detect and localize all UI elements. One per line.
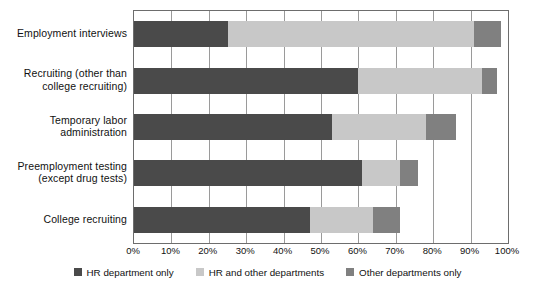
legend-item[interactable]: Other departments only: [346, 267, 461, 278]
category-label: Employment interviews: [0, 27, 127, 40]
plot-area: [133, 10, 509, 244]
category-label: Temporary laboradministration: [0, 114, 127, 139]
category-label-line: Preemployment testing: [0, 160, 127, 173]
bar-segment: [482, 68, 497, 94]
chart-legend: HR department onlyHR and other departmen…: [0, 264, 535, 280]
bar-segment: [310, 207, 374, 233]
bar-segment: [332, 114, 426, 140]
bar-segment: [134, 114, 332, 140]
bar-segment: [134, 160, 362, 186]
category-label-line: Employment interviews: [0, 27, 127, 40]
x-tick-label: 60%: [348, 245, 367, 257]
bar-row: [134, 207, 508, 233]
category-label: Preemployment testing(except drug tests): [0, 160, 127, 185]
x-tick-label: 80%: [423, 245, 442, 257]
category-label-line: College recruiting: [0, 213, 127, 226]
bar-segment: [358, 68, 481, 94]
bar-row: [134, 68, 508, 94]
x-tick-label: 50%: [310, 245, 329, 257]
x-tick-label: 70%: [385, 245, 404, 257]
category-label-line: (except drug tests): [0, 172, 127, 185]
x-tick-label: 100%: [495, 245, 519, 257]
bar-segment: [474, 21, 500, 47]
x-tick-label: 90%: [460, 245, 479, 257]
legend-swatch-icon: [196, 268, 204, 276]
category-label: College recruiting: [0, 213, 127, 226]
stacked-bar-chart: Employment interviewsRecruiting (other t…: [0, 0, 535, 285]
bars-layer: [134, 11, 508, 243]
category-label-line: Temporary labor: [0, 114, 127, 127]
category-label-line: Recruiting (other than: [0, 67, 127, 80]
bar-segment: [426, 114, 456, 140]
legend-label: Other departments only: [359, 267, 461, 278]
x-tick-label: 10%: [161, 245, 180, 257]
category-label-line: college recruiting): [0, 80, 127, 93]
legend-label: HR department only: [87, 267, 174, 278]
x-tick-label: 0%: [126, 245, 140, 257]
bar-segment: [362, 160, 399, 186]
bar-segment: [400, 160, 419, 186]
legend-label: HR and other departments: [209, 267, 324, 278]
bar-row: [134, 21, 508, 47]
category-label: Recruiting (other thancollege recruiting…: [0, 67, 127, 92]
legend-swatch-icon: [74, 268, 82, 276]
bar-row: [134, 160, 508, 186]
x-tick-label: 20%: [198, 245, 217, 257]
category-axis-labels: Employment interviewsRecruiting (other t…: [0, 10, 127, 242]
bar-segment: [373, 207, 399, 233]
legend-swatch-icon: [346, 268, 354, 276]
x-tick-label: 30%: [236, 245, 255, 257]
category-label-line: administration: [0, 126, 127, 139]
legend-item[interactable]: HR and other departments: [196, 267, 324, 278]
bar-segment: [134, 207, 310, 233]
bar-segment: [134, 68, 358, 94]
legend-item[interactable]: HR department only: [74, 267, 174, 278]
x-tick-label: 40%: [273, 245, 292, 257]
x-axis-tick-labels: 0%10%20%30%40%50%60%70%80%90%100%: [133, 245, 507, 259]
bar-segment: [228, 21, 475, 47]
bar-segment: [134, 21, 228, 47]
bar-row: [134, 114, 508, 140]
